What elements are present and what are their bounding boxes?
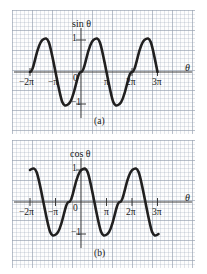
sine-axis-label-x: θ [185,63,190,73]
cosine-axis-label-x: θ [185,193,190,203]
sine-panel-caption: (a) [94,117,105,127]
sine-xtick-label-3pi: 3π [152,78,162,88]
sine-origin-label: 0 [73,74,78,84]
cosine-panel-caption: (b) [94,249,105,259]
cosine-axis-label-y: cos θ [70,149,91,159]
cosine-ytick-label-negative: −1 [71,228,81,238]
cosine-ytick-label-positive: 1 [72,164,77,174]
sine-xtick-label-2pi: 2π [126,78,136,88]
sine-xtick-label-pi: π [104,78,109,88]
sine-axis-label-y: sin θ [72,19,91,29]
cosine-xtick-label-pi: π [104,208,109,218]
sine-ytick-label-positive: 1 [72,34,77,44]
cosine-xtick-label-minuspi: −π [48,208,58,218]
cosine-xtick-label-3pi: 3π [152,208,162,218]
sine-xtick-label-minuspi: −π [48,78,58,88]
cosine-xtick-label-2pi: 2π [126,208,136,218]
cosine-origin-label: 0 [73,204,78,214]
sine-xtick-label-minus2pi: −2π [19,78,34,88]
sine-ytick-label-negative: −1 [71,98,81,108]
cosine-xtick-label-minus2pi: −2π [19,208,34,218]
trig-graphs-figure: sin θ θ 1 −1 0 −2π −π π 2π 3π (a) [0,0,207,274]
